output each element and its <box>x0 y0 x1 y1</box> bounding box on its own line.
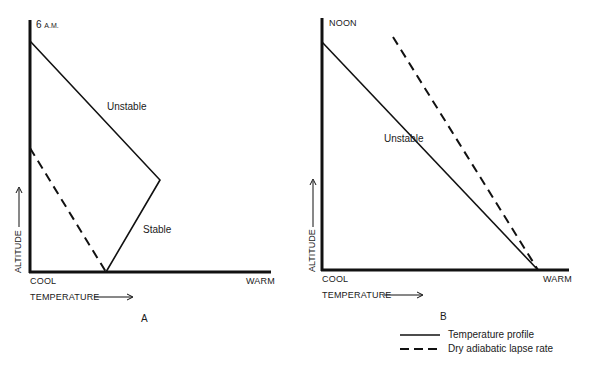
panel-b-altitude-label: ALTITUDE <box>307 229 317 272</box>
panel-a-axes <box>29 20 271 273</box>
panel-b-caption: B <box>440 311 447 322</box>
panel-a-altitude-label: ALTITUDE <box>13 230 23 273</box>
diagram-canvas <box>0 0 589 368</box>
panel-a-cool-label: COOL <box>30 276 56 286</box>
panel-a-time-main: 6 <box>36 19 42 30</box>
panel-a-caption: A <box>141 313 148 324</box>
panel-b-unstable-label: Unstable <box>384 133 423 144</box>
panel-b-cool-label: COOL <box>322 274 348 284</box>
panel-a-unstable-label: Unstable <box>107 101 146 112</box>
panel-b-temperature-profile <box>322 42 538 270</box>
legend-dry-adiabatic-lapse-rate: Dry adiabatic lapse rate <box>448 343 553 354</box>
panel-b-time-label: NOON <box>329 18 357 28</box>
legend-temperature-profile: Temperature profile <box>448 329 534 340</box>
panel-a-time-suffix: A.M. <box>44 22 58 29</box>
panel-a-warm-label: WARM <box>246 276 275 286</box>
panel-b-altitude-arrow-icon <box>310 179 316 227</box>
panel-a-stable-label: Stable <box>143 224 171 235</box>
panel-a-time-label: 6 A.M. <box>36 19 59 30</box>
panel-a-temperature-profile <box>30 41 160 272</box>
panel-b-axes <box>321 18 569 271</box>
panel-a-dry-adiabatic-line <box>30 148 106 272</box>
panel-a-temperature-arrow-icon <box>94 294 133 300</box>
panel-b-warm-label: WARM <box>543 274 572 284</box>
panel-a-temperature-label: TEMPERATURE <box>30 292 100 302</box>
panel-b-temperature-label: TEMPERATURE <box>322 290 392 300</box>
panel-b-dry-adiabatic-line <box>393 37 538 270</box>
panel-a-altitude-arrow-icon <box>16 187 22 227</box>
